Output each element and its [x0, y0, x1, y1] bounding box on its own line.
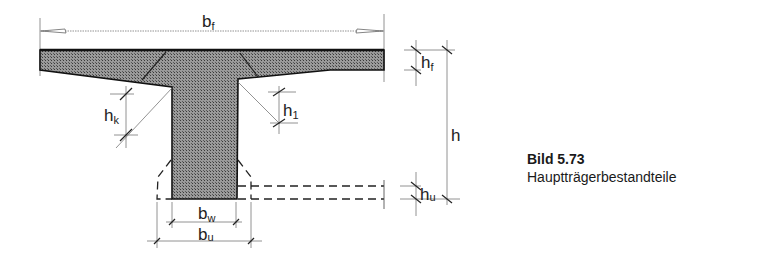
label-h-f: hf — [421, 53, 434, 73]
t-beam-diagram: bf hk h1 — [0, 0, 771, 256]
label-b-f: bf — [202, 12, 215, 32]
label-h-k: hk — [104, 106, 119, 126]
t-beam-section — [40, 50, 384, 199]
caption-title: Bild 5.73 — [527, 150, 676, 168]
figure-caption: Bild 5.73 Hauptträgerbestandteile — [527, 150, 676, 186]
label-h: h — [451, 126, 460, 145]
caption-text: Hauptträgerbestandteile — [527, 168, 676, 186]
label-h-u: hu — [420, 185, 436, 204]
label-h-1: h1 — [283, 101, 299, 121]
haunch-left-dimension — [110, 86, 172, 148]
label-b-w: bw — [198, 204, 215, 224]
label-b-u: bu — [198, 225, 214, 244]
